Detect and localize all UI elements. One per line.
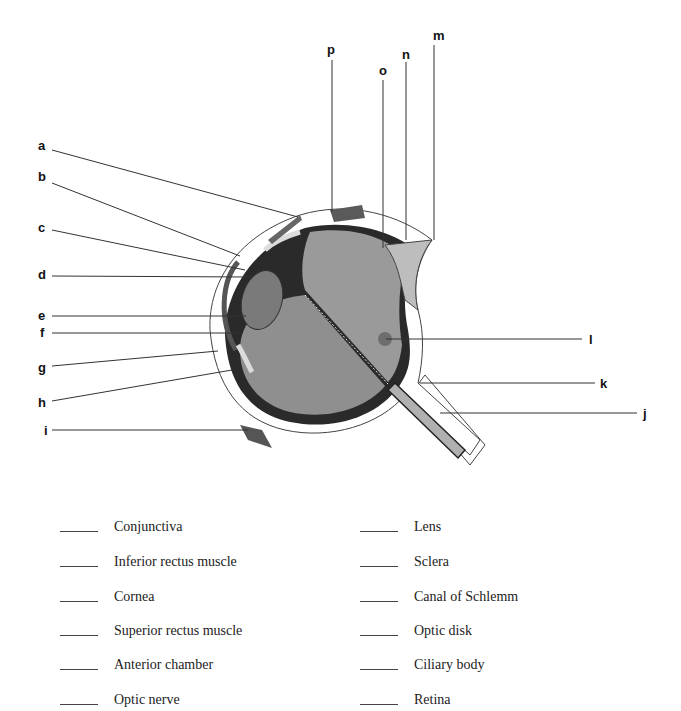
eye-diagram: a b c d e f g h i j k l m n o p — [0, 0, 681, 500]
answer-blank[interactable] — [360, 704, 398, 705]
term-label: Optic nerve — [114, 692, 180, 708]
label-b: b — [38, 170, 46, 183]
term-label: Conjunctiva — [114, 519, 182, 535]
term-label: Lens — [414, 519, 441, 535]
term-label: Optic disk — [414, 623, 472, 639]
eye-illustration — [0, 0, 681, 500]
term-label: Ciliary body — [414, 657, 484, 673]
label-p: p — [327, 43, 335, 56]
answer-blank[interactable] — [360, 566, 398, 567]
answer-blank[interactable] — [60, 704, 98, 705]
term-label: Anterior chamber — [114, 657, 213, 673]
label-o: o — [379, 64, 387, 77]
answer-blank[interactable] — [360, 669, 398, 670]
label-e: e — [38, 309, 45, 322]
label-i: i — [44, 424, 48, 437]
answer-blank[interactable] — [360, 635, 398, 636]
label-d: d — [38, 268, 46, 281]
label-k: k — [600, 377, 607, 390]
answer-blank[interactable] — [60, 566, 98, 567]
label-g: g — [38, 361, 46, 374]
term-label: Inferior rectus muscle — [114, 554, 237, 570]
answer-blank[interactable] — [60, 601, 98, 602]
label-j: j — [643, 407, 647, 420]
term-label: Superior rectus muscle — [114, 623, 242, 639]
answer-blank[interactable] — [60, 531, 98, 532]
label-l: l — [589, 333, 593, 346]
term-label: Sclera — [414, 554, 449, 570]
label-a: a — [38, 139, 45, 152]
term-label: Canal of Schlemm — [414, 589, 518, 605]
label-m: m — [433, 29, 445, 42]
label-n: n — [402, 48, 410, 61]
answer-blank[interactable] — [60, 635, 98, 636]
term-label: Retina — [414, 692, 451, 708]
answer-blank[interactable] — [360, 531, 398, 532]
answer-blank[interactable] — [60, 669, 98, 670]
label-f: f — [40, 326, 44, 339]
label-h: h — [38, 396, 46, 409]
label-c: c — [38, 221, 45, 234]
answer-blank[interactable] — [360, 601, 398, 602]
term-label: Cornea — [114, 589, 154, 605]
